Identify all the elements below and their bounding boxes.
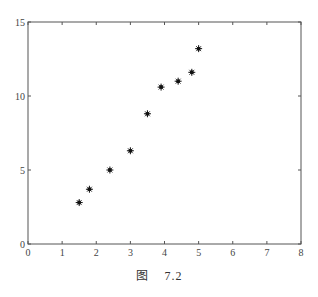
x-tick-label: 2: [94, 247, 99, 258]
x-tick-label: 0: [26, 247, 31, 258]
caption-prefix: 图: [136, 269, 149, 283]
data-point-marker: [86, 186, 93, 193]
plot-frame: [28, 22, 301, 244]
y-tick-label: 15: [15, 17, 25, 28]
x-tick-label: 7: [264, 247, 269, 258]
data-point-marker: [188, 69, 195, 76]
y-tick-label: 10: [15, 91, 25, 102]
caption-number: 7.2: [165, 269, 183, 283]
x-tick-label: 3: [128, 247, 133, 258]
x-tick-label: 5: [196, 247, 201, 258]
x-tick-label: 1: [60, 247, 65, 258]
figure-caption: 图 7.2: [0, 266, 318, 284]
x-tick-label: 8: [299, 247, 304, 258]
data-point-marker: [106, 167, 113, 174]
plot-axes: 012345678051015: [15, 17, 304, 258]
x-tick-label: 4: [162, 247, 167, 258]
data-point-marker: [76, 199, 83, 206]
data-point-marker: [195, 45, 202, 52]
data-point-marker: [144, 110, 151, 117]
x-tick-label: 6: [230, 247, 235, 258]
data-point-marker: [158, 84, 165, 91]
data-point-marker: [175, 78, 182, 85]
scatter-plot: 012345678051015: [0, 0, 318, 262]
data-point-marker: [127, 147, 134, 154]
data-points: [76, 45, 202, 206]
y-tick-label: 5: [20, 165, 25, 176]
y-tick-label: 0: [20, 239, 25, 250]
